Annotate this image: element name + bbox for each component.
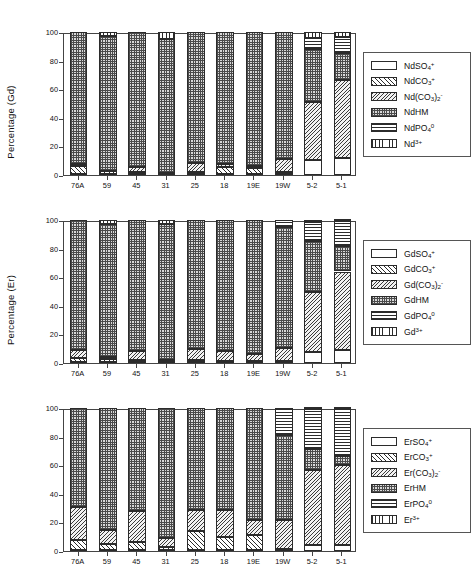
- bar[interactable]: [99, 408, 117, 551]
- bar-segment[interactable]: [99, 357, 117, 360]
- bar-segment[interactable]: [128, 511, 146, 542]
- bar[interactable]: [246, 220, 264, 363]
- legend-item[interactable]: GdCO3+: [371, 264, 464, 275]
- bar-segment[interactable]: [246, 535, 264, 550]
- bar-segment[interactable]: [128, 351, 146, 360]
- legend-item[interactable]: GdPO40: [371, 310, 464, 321]
- bar-segment[interactable]: [334, 219, 352, 221]
- bar-segment[interactable]: [70, 220, 88, 350]
- bar[interactable]: [246, 408, 264, 551]
- bar-segment[interactable]: [275, 159, 293, 172]
- bar[interactable]: [70, 220, 88, 363]
- bar-segment[interactable]: [99, 224, 117, 357]
- bar-segment[interactable]: [334, 350, 352, 363]
- bar-segment[interactable]: [158, 32, 176, 39]
- bar[interactable]: [158, 220, 176, 363]
- legend-item[interactable]: GdSO4+: [371, 248, 464, 259]
- bar-segment[interactable]: [334, 80, 352, 158]
- bar-segment[interactable]: [334, 409, 352, 455]
- bar-segment[interactable]: [304, 160, 322, 175]
- bar-segment[interactable]: [187, 349, 205, 360]
- bar-segment[interactable]: [304, 407, 322, 409]
- bar-segment[interactable]: [70, 164, 88, 166]
- bar-segment[interactable]: [158, 547, 176, 551]
- bar-segment[interactable]: [246, 168, 264, 175]
- bar-segment[interactable]: [304, 409, 322, 449]
- legend-item[interactable]: Er(CO3)2-: [371, 467, 464, 478]
- bar-segment[interactable]: [187, 408, 205, 510]
- bar[interactable]: [334, 32, 352, 175]
- legend-item[interactable]: ErHM: [371, 483, 464, 494]
- bar-segment[interactable]: [304, 38, 322, 48]
- bar-segment[interactable]: [275, 32, 293, 159]
- bar-segment[interactable]: [304, 49, 322, 102]
- bar-segment[interactable]: [70, 540, 88, 550]
- bar[interactable]: [99, 32, 117, 175]
- legend-item[interactable]: Nd(CO3)2-: [371, 91, 464, 102]
- bar-segment[interactable]: [99, 530, 117, 544]
- bar-segment[interactable]: [216, 220, 234, 351]
- bar[interactable]: [246, 32, 264, 175]
- bar-segment[interactable]: [158, 39, 176, 173]
- bar-segment[interactable]: [70, 408, 88, 507]
- bar-segment[interactable]: [246, 520, 264, 535]
- bar[interactable]: [128, 32, 146, 175]
- bar-segment[interactable]: [99, 359, 117, 362]
- bar-segment[interactable]: [216, 32, 234, 164]
- bar-segment[interactable]: [304, 352, 322, 363]
- bar[interactable]: [304, 220, 322, 363]
- bar-segment[interactable]: [216, 164, 234, 167]
- bar-segment[interactable]: [128, 220, 146, 351]
- bar-segment[interactable]: [70, 166, 88, 174]
- bar[interactable]: [128, 408, 146, 551]
- bar-segment[interactable]: [216, 167, 234, 174]
- bar-segment[interactable]: [187, 510, 205, 531]
- bar-segment[interactable]: [187, 32, 205, 163]
- bar-segment[interactable]: [216, 408, 234, 510]
- bar-segment[interactable]: [187, 531, 205, 550]
- bar[interactable]: [158, 32, 176, 175]
- bar-segment[interactable]: [99, 544, 117, 550]
- bar-segment[interactable]: [158, 224, 176, 359]
- bar-segment[interactable]: [304, 241, 322, 292]
- bar[interactable]: [216, 220, 234, 363]
- bar-segment[interactable]: [275, 408, 293, 435]
- bar-segment[interactable]: [128, 360, 146, 363]
- bar-segment[interactable]: [304, 545, 322, 551]
- bar[interactable]: [128, 220, 146, 363]
- bar[interactable]: [70, 408, 88, 551]
- bar-segment[interactable]: [275, 227, 293, 348]
- bar-segment[interactable]: [187, 172, 205, 174]
- bar-segment[interactable]: [216, 510, 234, 537]
- legend-item[interactable]: Gd3+: [371, 326, 464, 337]
- bar-segment[interactable]: [158, 408, 176, 538]
- bar-segment[interactable]: [334, 32, 352, 37]
- legend-item[interactable]: GdHM: [371, 295, 464, 306]
- bar-segment[interactable]: [246, 408, 264, 520]
- bar[interactable]: [187, 32, 205, 175]
- legend-item[interactable]: NdPO40: [371, 122, 464, 133]
- bar[interactable]: [216, 408, 234, 551]
- bar-segment[interactable]: [246, 354, 264, 361]
- bar-segment[interactable]: [187, 220, 205, 349]
- bar-segment[interactable]: [334, 37, 352, 53]
- bar[interactable]: [275, 220, 293, 363]
- legend-item[interactable]: NdCO3+: [371, 76, 464, 87]
- bar-segment[interactable]: [246, 32, 264, 166]
- legend-item[interactable]: NdSO4+: [371, 60, 464, 71]
- bar-segment[interactable]: [275, 348, 293, 361]
- bar[interactable]: [275, 32, 293, 175]
- bar-segment[interactable]: [246, 166, 264, 168]
- bar-segment[interactable]: [275, 220, 293, 227]
- bar-segment[interactable]: [216, 351, 234, 361]
- legend-item[interactable]: ErPO40: [371, 498, 464, 509]
- bar-segment[interactable]: [304, 292, 322, 351]
- bar[interactable]: [216, 32, 234, 175]
- bar-segment[interactable]: [304, 220, 322, 222]
- bar-segment[interactable]: [128, 167, 146, 172]
- bar-segment[interactable]: [304, 470, 322, 545]
- bar-segment[interactable]: [334, 53, 352, 80]
- legend-item[interactable]: NdHM: [371, 107, 464, 118]
- bar-segment[interactable]: [158, 538, 176, 547]
- bar[interactable]: [275, 408, 293, 551]
